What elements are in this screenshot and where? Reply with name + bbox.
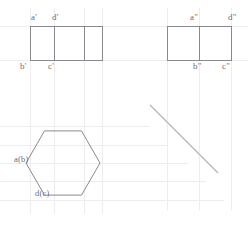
label-a-double-prime: a" — [190, 13, 198, 22]
engineering-drawing-canvas: a' d' b' c' a" d" b" c" a(b) d(c) — [0, 0, 248, 226]
label-d-c: d(c) — [35, 189, 49, 198]
label-b-prime: b' — [20, 62, 27, 71]
label-a-b: a(b) — [14, 155, 28, 164]
label-c-double-prime: c" — [222, 62, 230, 71]
front-view — [30, 26, 102, 60]
label-a-prime: a' — [31, 13, 37, 22]
label-b-double-prime: b" — [193, 62, 202, 71]
side-view — [167, 26, 231, 60]
front-view-outline — [30, 26, 102, 60]
label-d-double-prime: d" — [228, 13, 237, 22]
label-d-prime: d' — [52, 13, 59, 22]
label-c-prime: c' — [48, 62, 54, 71]
